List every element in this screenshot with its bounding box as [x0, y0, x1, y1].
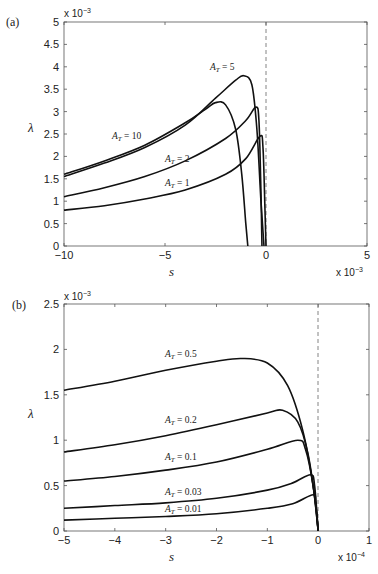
figure: (a) x 10−3 −10−50500.511.522.533.544.55 … — [0, 0, 378, 574]
y-tick-label: 1.5 — [44, 389, 59, 401]
x-tick-label: −2 — [210, 534, 223, 546]
y-tick-label: 2 — [53, 150, 59, 162]
y-tick-label: 0.5 — [44, 218, 59, 230]
x-tick-label: 5 — [364, 249, 370, 261]
x-tick-label: 0 — [263, 249, 269, 261]
series-line — [64, 475, 318, 531]
x-multiplier-b: x 10−4 — [338, 551, 365, 563]
x-tick-label: 1 — [366, 534, 372, 546]
y-tick-label: 0 — [53, 525, 59, 537]
curve-label-at1: AT = 1 — [164, 178, 190, 190]
x-multiplier-a: x 10−3 — [336, 266, 363, 278]
series-line — [64, 76, 264, 246]
series-line — [64, 107, 262, 246]
curve-label-at0.03: AT = 0.03 — [164, 487, 202, 499]
y-multiplier-a: x 10−3 — [64, 7, 91, 19]
y-tick-label: 2.5 — [44, 298, 59, 310]
y-tick-label: 4.5 — [44, 38, 59, 50]
series-line — [64, 102, 248, 246]
y-axis-label-b: λ — [27, 406, 34, 421]
y-tick-label: 3.5 — [44, 83, 59, 95]
y-tick-label: 0.5 — [44, 480, 59, 492]
ticks-a: −10−50500.511.522.533.544.55 — [44, 16, 370, 261]
y-tick-label: 0 — [53, 240, 59, 252]
x-axis-label-b: s — [169, 549, 174, 564]
plot-frame-b — [64, 304, 369, 531]
y-tick-label: 3 — [53, 106, 59, 118]
y-multiplier-b: x 10−3 — [64, 290, 91, 302]
ticks-b: −5−4−3−2−10100.511.522.5 — [44, 298, 372, 546]
curve-label-at10: AT = 10 — [111, 131, 142, 143]
y-tick-label: 4 — [53, 61, 59, 73]
y-tick-label: 1.5 — [44, 173, 59, 185]
x-tick-label: −4 — [109, 534, 122, 546]
x-tick-label: −5 — [58, 534, 71, 546]
curve-label-at0.01: AT = 0.01 — [164, 504, 202, 516]
y-tick-label: 1 — [53, 195, 59, 207]
x-tick-label: −1 — [261, 534, 274, 546]
y-tick-label: 2.5 — [44, 128, 59, 140]
curve-label-at0.1: AT = 0.1 — [164, 452, 197, 464]
chart-a: (a) x 10−3 −10−50500.511.522.533.544.55 … — [6, 7, 370, 279]
panel-label-a: (a) — [6, 15, 19, 29]
x-tick-label: −5 — [159, 249, 172, 261]
y-tick-label: 5 — [53, 16, 59, 28]
plot-frame-a — [64, 22, 367, 246]
x-tick-label: −3 — [159, 534, 172, 546]
chart-b: (b) x 10−3 −5−4−3−2−10100.511.522.5 λ s … — [12, 290, 372, 564]
y-tick-label: 1 — [53, 434, 59, 446]
x-tick-label: 0 — [315, 534, 321, 546]
panel-label-b: (b) — [12, 298, 26, 312]
y-tick-label: 2 — [53, 343, 59, 355]
x-axis-label-a: s — [169, 264, 174, 279]
curve-label-at5: AT = 5 — [209, 62, 235, 74]
y-axis-label-a: λ — [27, 120, 34, 135]
curve-label-at0.5: AT = 0.5 — [164, 349, 197, 361]
curve-label-at0.2: AT = 0.2 — [164, 415, 197, 427]
